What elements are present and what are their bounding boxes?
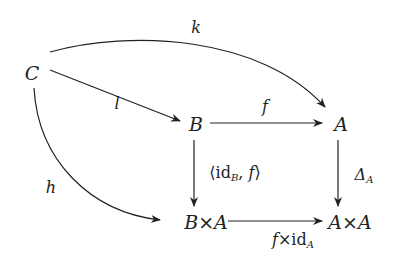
label-l: l (114, 96, 119, 112)
times-symbol: × (342, 211, 358, 233)
label-k: k (191, 20, 201, 36)
node-b-times-a-left: B (184, 211, 198, 233)
node-b-times-a: B×A (184, 213, 228, 232)
subscript-a: A (366, 174, 373, 185)
subscript-b: B (231, 172, 238, 183)
node-b-times-a-right: A (214, 211, 228, 233)
angle-close: ⟩ (254, 163, 260, 182)
node-a-times-a-left: A (328, 211, 342, 233)
label-delta: ΔA (355, 167, 374, 185)
delta-symbol: Δ (355, 165, 367, 184)
node-b: B (189, 115, 203, 134)
node-a-times-a: A×A (328, 213, 371, 232)
node-a-times-a-right: A (358, 211, 372, 233)
id-text: id (216, 163, 231, 182)
label-h: h (46, 180, 56, 196)
node-c: C (25, 64, 40, 83)
times-symbol: × (278, 230, 291, 249)
id-text: id (291, 230, 306, 249)
label-pair: ⟨idB, f⟩ (209, 165, 260, 183)
arrow-h (34, 88, 160, 220)
times-symbol: × (198, 211, 214, 233)
arrow-k (50, 40, 325, 107)
node-a: A (334, 115, 348, 134)
label-f-times-id: f×idA (272, 232, 314, 250)
label-f: f (262, 99, 268, 115)
subscript-a: A (307, 239, 314, 250)
separator: , (238, 163, 248, 182)
